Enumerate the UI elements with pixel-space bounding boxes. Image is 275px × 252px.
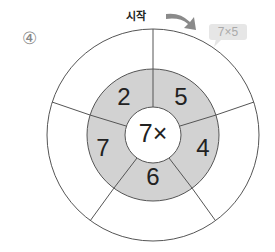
ring-number-2: 2 [109, 83, 139, 111]
example-bubble: 7×5 [209, 24, 247, 40]
start-arrow-icon [166, 14, 196, 30]
problem-number: ④ [22, 28, 37, 49]
ring-number-7: 7 [88, 134, 118, 162]
ring-number-6: 6 [138, 163, 168, 191]
ring-number-5: 5 [166, 83, 196, 111]
center-label: 7× [123, 119, 183, 148]
start-label: 시작 [126, 7, 146, 23]
ring-number-4: 4 [188, 134, 218, 162]
